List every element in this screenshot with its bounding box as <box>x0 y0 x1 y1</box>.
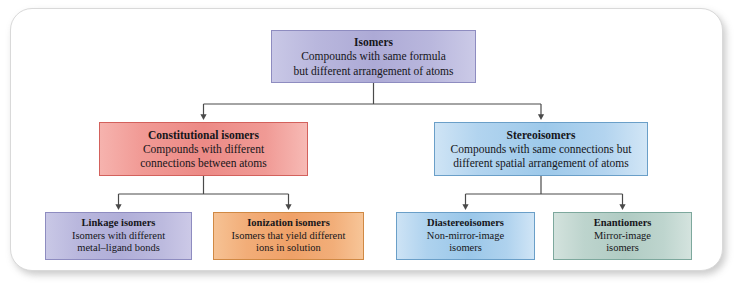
node-constitutional-isomers-title: Constitutional isomers <box>148 128 259 142</box>
node-constitutional-isomers-desc-line2: connections between atoms <box>140 156 266 170</box>
diagram-canvas: Isomers Compounds with same formula but … <box>0 0 749 295</box>
node-diastereoisomers-desc-line1: Non-mirror-image <box>427 230 504 243</box>
node-ionization-isomers-desc-line2: ions in solution <box>256 242 321 255</box>
node-ionization-isomers: Ionization isomers Isomers that yield di… <box>213 212 364 260</box>
node-linkage-isomers-desc-line1: Isomers with different <box>72 230 165 243</box>
node-ionization-isomers-title: Ionization isomers <box>247 217 330 230</box>
node-enantiomers-desc-line2: isomers <box>606 242 639 255</box>
node-linkage-isomers-desc-line2: metal–ligand bonds <box>77 242 160 255</box>
node-isomers: Isomers Compounds with same formula but … <box>271 30 476 83</box>
node-linkage-isomers: Linkage isomers Isomers with different m… <box>45 212 192 260</box>
node-diastereoisomers: Diastereoisomers Non-mirror-image isomer… <box>396 212 535 260</box>
node-ionization-isomers-desc-line1: Isomers that yield different <box>232 230 346 243</box>
node-enantiomers: Enantiomers Mirror-image isomers <box>553 212 692 260</box>
node-enantiomers-desc-line1: Mirror-image <box>594 230 651 243</box>
node-linkage-isomers-title: Linkage isomers <box>82 217 156 230</box>
node-diastereoisomers-title: Diastereoisomers <box>427 217 504 230</box>
node-stereoisomers-desc-line1: Compounds with same connections but <box>451 142 632 156</box>
node-stereoisomers-title: Stereoisomers <box>507 128 576 142</box>
node-isomers-desc-line2: but different arrangement of atoms <box>293 64 453 78</box>
node-constitutional-isomers-desc-line1: Compounds with different <box>143 142 264 156</box>
node-enantiomers-title: Enantiomers <box>594 217 652 230</box>
node-stereoisomers-desc-line2: different spatial arrangement of atoms <box>453 156 628 170</box>
node-isomers-desc-line1: Compounds with same formula <box>301 49 446 63</box>
node-stereoisomers: Stereoisomers Compounds with same connec… <box>434 122 648 176</box>
node-diastereoisomers-desc-line2: isomers <box>449 242 482 255</box>
node-isomers-title: Isomers <box>354 35 393 49</box>
node-constitutional-isomers: Constitutional isomers Compounds with di… <box>99 122 308 176</box>
